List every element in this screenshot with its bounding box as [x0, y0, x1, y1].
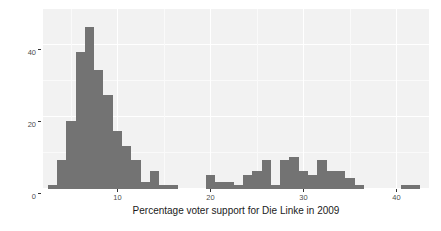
x-tick-label: 20 [206, 193, 214, 202]
y-tick-mark [38, 121, 41, 122]
chart-screenshot: 02040 10203040 Percentage voter support … [0, 0, 441, 231]
histogram-bar [122, 146, 131, 189]
histogram-bars [43, 9, 429, 189]
x-tick-label: 10 [113, 193, 121, 202]
y-tick: 20 [28, 113, 41, 121]
y-tick: 40 [28, 41, 41, 49]
histogram-bar [57, 160, 66, 189]
histogram-bar [308, 175, 317, 189]
x-tick-mark [303, 189, 304, 192]
histogram-bar [206, 175, 215, 189]
histogram-bar [113, 131, 122, 189]
histogram-bar [327, 171, 336, 189]
y-tick-label: 20 [28, 120, 36, 129]
histogram-bar [252, 171, 261, 189]
histogram-bar [289, 157, 298, 189]
x-tick-mark [117, 189, 118, 192]
histogram-bar [299, 171, 308, 189]
histogram-bar [150, 171, 159, 189]
histogram-bar [224, 182, 233, 189]
plot-panel [43, 9, 429, 189]
histogram-bar [66, 121, 75, 189]
y-axis: 02040 [0, 9, 43, 189]
x-tick-mark [396, 189, 397, 192]
histogram-bar [131, 160, 140, 189]
histogram-bar [280, 160, 289, 189]
histogram-bar [76, 52, 85, 189]
histogram-bar [85, 27, 94, 189]
histogram-bar [262, 160, 271, 189]
histogram-bar [94, 70, 103, 189]
x-tick-label: 30 [299, 193, 307, 202]
x-axis-title: Percentage voter support for Die Linke i… [43, 205, 429, 217]
y-tick-label: 0 [32, 192, 36, 201]
x-tick-mark [210, 189, 211, 192]
x-tick-label: 40 [392, 193, 400, 202]
histogram-bar [317, 160, 326, 189]
y-tick: 0 [32, 185, 41, 193]
y-tick-mark [38, 49, 41, 50]
y-tick-label: 40 [28, 48, 36, 57]
histogram-bar [141, 182, 150, 189]
y-tick-mark [38, 193, 41, 194]
histogram-bar [345, 178, 354, 189]
histogram-bar [336, 171, 345, 189]
histogram-bar [215, 182, 224, 189]
histogram-bar [103, 95, 112, 189]
histogram-bar [243, 175, 252, 189]
